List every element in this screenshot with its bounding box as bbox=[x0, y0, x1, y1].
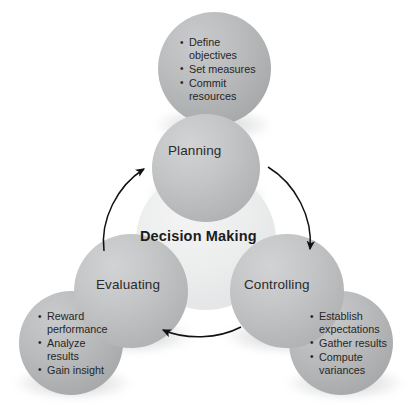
bullet-item: Gather results bbox=[310, 337, 398, 350]
bullet-item: Establish expectations bbox=[310, 310, 398, 336]
bullet-item: Reward performance bbox=[38, 310, 122, 336]
bullet-item: Analyze results bbox=[38, 337, 122, 363]
decision-making-cycle-diagram: Decision Making Planning Evaluating Cont… bbox=[0, 0, 410, 407]
bullet-item: Compute variances bbox=[310, 351, 398, 377]
planning-label: Planning bbox=[168, 143, 221, 158]
controlling-label: Controlling bbox=[244, 277, 310, 292]
bullet-item: Define objectives bbox=[180, 36, 272, 62]
bullet-item: Gain insight bbox=[38, 364, 122, 377]
bullet-item: Set measures bbox=[180, 63, 272, 76]
evaluating-label: Evaluating bbox=[96, 277, 160, 292]
planning-circle[interactable] bbox=[152, 114, 260, 222]
planning-bullets: Define objectives Set measures Commit re… bbox=[180, 36, 272, 104]
bullet-item: Commit resources bbox=[180, 77, 272, 103]
controlling-bullets: Establish expectations Gather results Co… bbox=[310, 310, 398, 378]
evaluating-bullets: Reward performance Analyze results Gain … bbox=[38, 310, 122, 378]
center-label: Decision Making bbox=[140, 228, 257, 244]
